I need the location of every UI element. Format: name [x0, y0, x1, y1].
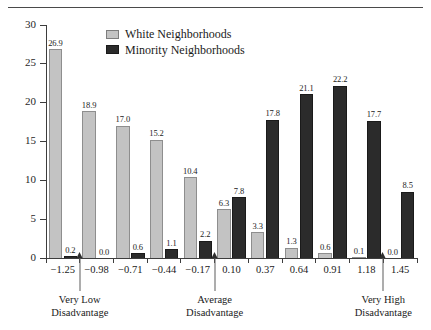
- annotation-label-line1: Very Low: [15, 294, 145, 307]
- y-tick-label: 5: [10, 212, 36, 224]
- bar-value-label: 7.8: [225, 186, 253, 196]
- annotation-label-line1: Average: [150, 294, 280, 307]
- y-tick-label: 30: [10, 18, 36, 30]
- bar-white: [217, 209, 231, 258]
- annotation-marker: [377, 258, 389, 292]
- bar-white: [116, 126, 130, 258]
- bar-white: [285, 248, 299, 258]
- marker-stem: [79, 258, 80, 291]
- figure-panel: Percentage 051015202530 26.918.917.015.2…: [0, 0, 431, 330]
- bar-minority: [199, 241, 213, 258]
- y-tick-label: 15: [10, 134, 36, 146]
- bar-white: [251, 232, 265, 258]
- x-tick: [147, 258, 148, 263]
- bar-value-label: 10.4: [177, 166, 205, 176]
- legend-label-white: White Neighborhoods: [125, 27, 231, 42]
- annotation-label: AverageDisadvantage: [150, 294, 280, 319]
- annotation-label: Very LowDisadvantage: [15, 294, 145, 319]
- marker-stem: [383, 258, 384, 291]
- legend-swatch-minority-icon: [106, 45, 119, 54]
- plot-area: 26.918.917.015.210.46.33.31.30.60.10.00.…: [46, 25, 417, 258]
- clipped-caption: [120, 0, 320, 4]
- bar-value-label: 17.7: [360, 109, 388, 119]
- bar-value-label: 0.6: [124, 242, 152, 252]
- bar-value-label: 22.2: [326, 74, 354, 84]
- y-tick-label: 20: [10, 95, 36, 107]
- annotation-label-line2: Disadvantage: [318, 307, 431, 320]
- x-tick: [46, 258, 47, 263]
- bar-value-label: 21.1: [293, 83, 321, 93]
- bar-value-label: 2.2: [192, 229, 220, 239]
- bar-value-label: 17.8: [259, 108, 287, 118]
- bar-value-label: 1.1: [158, 238, 186, 248]
- x-tick: [248, 258, 249, 263]
- bar-minority: [131, 253, 145, 258]
- bar-minority: [300, 94, 314, 258]
- x-tick: [113, 258, 114, 263]
- bar-minority: [367, 121, 381, 258]
- legend-swatch-white-icon: [106, 30, 119, 39]
- marker-stem: [214, 258, 215, 291]
- top-divider-rule: [8, 7, 423, 8]
- bar-minority: [165, 249, 179, 258]
- x-tick: [180, 258, 181, 263]
- x-axis-line: [46, 258, 417, 259]
- bar-group: 26.918.917.015.210.46.33.31.30.60.10.00.…: [46, 25, 417, 258]
- annotation-marker: [209, 258, 221, 292]
- annotation-label-line1: Very High: [318, 294, 431, 307]
- annotation-label-line2: Disadvantage: [15, 307, 145, 320]
- y-tick-label: 0: [10, 251, 36, 263]
- bar-value-label: 17.0: [109, 114, 137, 124]
- x-tick: [282, 258, 283, 263]
- bar-white: [82, 111, 96, 258]
- annotation-label: Very HighDisadvantage: [318, 294, 431, 319]
- bar-white: [352, 257, 366, 258]
- y-tick-label: 10: [10, 173, 36, 185]
- bar-value-label: 18.9: [75, 100, 103, 110]
- bar-minority: [232, 197, 246, 258]
- x-tick: [417, 258, 418, 263]
- bar-value-label: 15.2: [143, 128, 171, 138]
- bar-minority: [401, 192, 415, 258]
- y-tick-label: 25: [10, 56, 36, 68]
- x-tick: [349, 258, 350, 263]
- bar-value-label: 0.0: [90, 247, 118, 257]
- chart-legend: White Neighborhoods Minority Neighborhoo…: [106, 27, 245, 58]
- bar-minority: [266, 120, 280, 258]
- annotation-label-line2: Disadvantage: [150, 307, 280, 320]
- bar-value-label: 26.9: [42, 38, 70, 48]
- annotation-marker: [74, 258, 86, 292]
- bar-white: [184, 177, 198, 258]
- x-tick: [315, 258, 316, 263]
- bar-value-label: 8.5: [394, 180, 422, 190]
- legend-label-minority: Minority Neighborhoods: [125, 43, 245, 58]
- bar-minority: [333, 86, 347, 258]
- legend-item-white: White Neighborhoods: [106, 27, 245, 42]
- y-axis-title-wrap: Percentage: [12, 175, 28, 295]
- legend-item-minority: Minority Neighborhoods: [106, 43, 245, 58]
- bar-white: [318, 253, 332, 258]
- bar-white: [49, 49, 63, 258]
